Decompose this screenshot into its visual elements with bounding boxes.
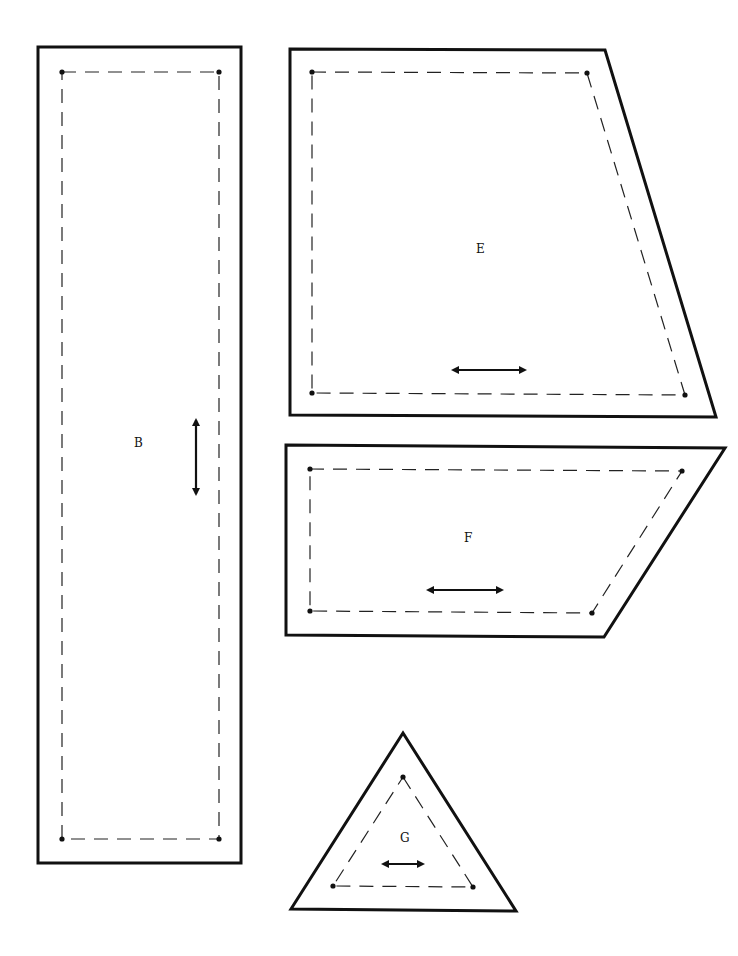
piece-f-label: F: [464, 531, 472, 545]
piece-g-cut-line: [291, 733, 516, 911]
piece-b-label: B: [134, 436, 143, 450]
piece-e: E: [290, 49, 716, 417]
piece-f-cut-line: [286, 445, 725, 637]
piece-b: B: [38, 47, 241, 863]
piece-f: F: [286, 445, 725, 637]
piece-g-label: G: [400, 831, 410, 845]
piece-g: G: [291, 733, 516, 911]
piece-b-cut-line: [38, 47, 241, 863]
piece-e-cut-line: [290, 49, 716, 417]
piece-e-label: E: [476, 242, 485, 256]
pattern-sheet: B E F: [0, 0, 738, 956]
